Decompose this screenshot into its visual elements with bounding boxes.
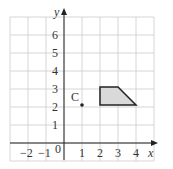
svg-text:6: 6 xyxy=(52,28,58,42)
svg-text:−2: −2 xyxy=(20,146,33,160)
x-axis-label: x xyxy=(147,146,154,160)
svg-text:4: 4 xyxy=(133,146,139,160)
point-c-label: C xyxy=(71,90,79,104)
svg-text:2: 2 xyxy=(97,146,103,160)
trapezium-shape xyxy=(100,87,136,105)
svg-text:2: 2 xyxy=(52,100,58,114)
point-c xyxy=(80,103,84,107)
coordinate-grid: C y x −2−101234123456 xyxy=(0,0,173,169)
svg-text:1: 1 xyxy=(79,146,85,160)
svg-text:3: 3 xyxy=(115,146,121,160)
svg-text:5: 5 xyxy=(52,46,58,60)
svg-text:1: 1 xyxy=(52,118,58,132)
svg-text:3: 3 xyxy=(52,82,58,96)
svg-text:0: 0 xyxy=(55,142,61,156)
svg-text:−1: −1 xyxy=(38,146,51,160)
svg-text:4: 4 xyxy=(52,64,58,78)
y-axis-label: y xyxy=(53,5,60,19)
